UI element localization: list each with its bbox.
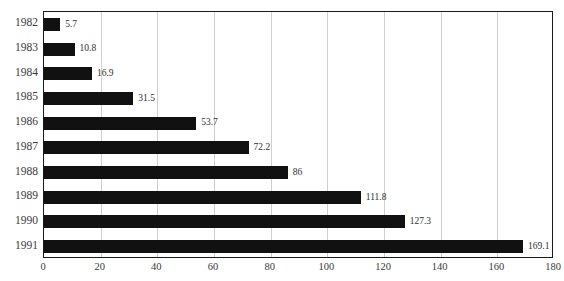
x-axis-tick-label: 0	[40, 262, 45, 273]
x-axis-tick-label: 100	[318, 262, 334, 273]
bar-chart: 5.710.816.931.553.772.286111.8127.3169.1…	[0, 0, 564, 281]
y-axis-tick-label: 1989	[0, 190, 38, 202]
x-axis-tick-label: 140	[432, 262, 448, 273]
y-axis-tick-label: 1987	[0, 141, 38, 153]
y-axis-tick-label: 1986	[0, 116, 38, 128]
x-axis-tick-label: 20	[94, 262, 105, 273]
y-axis-tick-label: 1983	[0, 42, 38, 54]
y-axis-tick-label: 1985	[0, 91, 38, 103]
y-axis-tick-label: 1990	[0, 215, 38, 227]
y-axis-tick-label: 1988	[0, 166, 38, 178]
y-axis-tick-label: 1984	[0, 67, 38, 79]
y-axis-tick-labels: 1982198319841985198619871988198919901991	[0, 11, 564, 258]
x-axis-tick-label: 160	[488, 262, 504, 273]
x-axis-tick-label: 40	[151, 262, 162, 273]
x-axis-tick-label: 80	[264, 262, 275, 273]
x-axis-tick-label: 60	[208, 262, 219, 273]
x-axis-tick-label: 180	[545, 262, 561, 273]
y-axis-tick-label: 1991	[0, 240, 38, 252]
x-axis-tick-labels: 020406080100120140160180	[43, 262, 553, 280]
y-axis-tick-label: 1982	[0, 17, 38, 29]
x-axis-tick-label: 120	[375, 262, 391, 273]
